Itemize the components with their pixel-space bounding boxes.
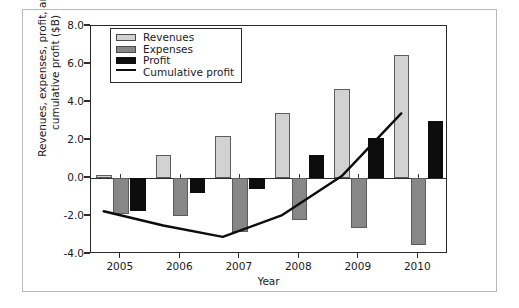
x-tick-label: 2005 xyxy=(90,260,150,272)
legend-swatch-expenses xyxy=(116,46,136,53)
x-tick-label: 2006 xyxy=(149,260,209,272)
legend-item: Cumulative profit xyxy=(116,67,234,79)
x-tick-label: 2008 xyxy=(268,260,328,272)
legend-swatch-revenues xyxy=(116,34,136,41)
x-axis-title: Year xyxy=(90,275,447,287)
y-tick-label: 2.0 xyxy=(42,134,84,145)
y-tick-label: 6.0 xyxy=(42,58,84,69)
legend-label: Revenues xyxy=(143,32,194,44)
x-tick-label: 2007 xyxy=(209,260,269,272)
legend-item: Expenses xyxy=(116,44,234,56)
y-tick-label-wrap: 4.0 xyxy=(36,96,84,107)
y-tick-label-wrap: 6.0 xyxy=(36,58,84,69)
y-tick-label: 8.0 xyxy=(42,20,84,31)
legend-label: Cumulative profit xyxy=(143,67,234,79)
chart-canvas: Revenues, expenses, profit, and cumulati… xyxy=(0,0,519,308)
legend-item: Profit xyxy=(116,55,234,67)
legend-swatch-line xyxy=(116,69,136,76)
legend-item: Revenues xyxy=(116,32,234,44)
x-tick-label: 2009 xyxy=(328,260,388,272)
y-axis-title-host: Revenues, expenses, profit, and cumulati… xyxy=(0,0,1,1)
y-tick-label: -4.0 xyxy=(42,248,84,259)
y-tick-label: 0.0 xyxy=(42,172,84,183)
y-tick-label: -2.0 xyxy=(42,210,84,221)
y-tick-label-wrap: -2.0 xyxy=(36,210,84,221)
x-tick-label: 2010 xyxy=(387,260,447,272)
y-tick-label-wrap: 2.0 xyxy=(36,134,84,145)
y-tick-label-wrap: 8.0 xyxy=(36,20,84,31)
y-tick-label-wrap: 0.0 xyxy=(36,172,84,183)
legend-swatch-profit xyxy=(116,57,136,64)
y-tick-label-wrap: -4.0 xyxy=(36,248,84,259)
legend-label: Profit xyxy=(143,55,170,67)
y-tick-label: 4.0 xyxy=(42,96,84,107)
chart-legend: RevenuesExpensesProfitCumulative profit xyxy=(110,28,242,83)
